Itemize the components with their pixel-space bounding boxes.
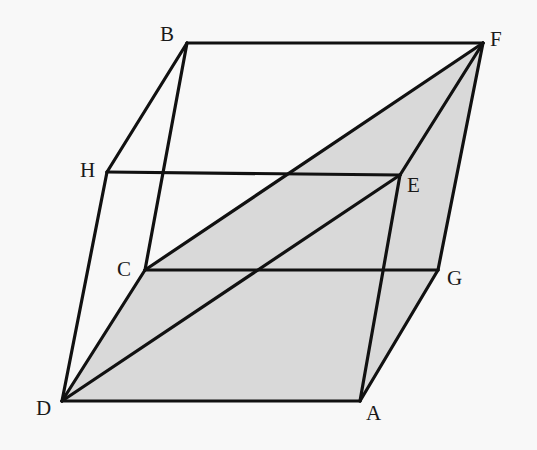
- vertex-label-f: F: [490, 29, 502, 50]
- vertex-label-e: E: [407, 175, 420, 196]
- vertex-label-h: H: [80, 160, 95, 181]
- vertex-label-b: B: [160, 24, 174, 45]
- shaded-plane: [62, 43, 483, 401]
- vertex-label-d: D: [36, 398, 51, 419]
- geometry-figure: B F H E C G D A: [0, 0, 537, 450]
- shaded-region: [62, 43, 483, 401]
- parallelepiped-diagram: [0, 0, 537, 450]
- vertex-label-c: C: [117, 259, 131, 280]
- vertex-label-a: A: [366, 403, 381, 424]
- vertex-label-g: G: [447, 268, 462, 289]
